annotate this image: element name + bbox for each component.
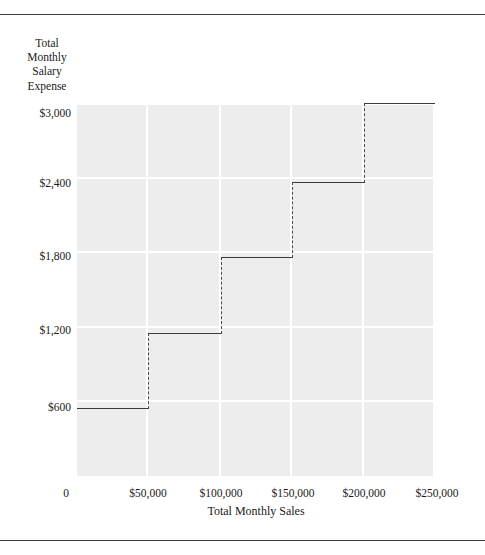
step-riser-2400-to-3000	[364, 103, 365, 183]
y-tick-label-3000: $3,000	[7, 107, 71, 119]
x-tick-label-100000: $100,000	[199, 486, 242, 500]
step-tread-2400	[292, 182, 364, 183]
step-tread-1200	[148, 333, 221, 334]
x-tick-label-150000: $150,000	[271, 486, 314, 500]
x-tick-label-0: 0	[63, 486, 69, 500]
step-tread-600	[77, 408, 148, 409]
x-tick-label-250000: $250,000	[415, 486, 458, 500]
step-tread-3000	[364, 103, 435, 104]
plot-area	[77, 105, 435, 478]
step-tread-1800	[221, 257, 292, 258]
x-tick-label-200000: $200,000	[342, 486, 385, 500]
step-function-chart: Total Monthly Salary Expense $3,000 $2,4…	[0, 0, 485, 555]
step-riser-1800-to-2400	[292, 182, 293, 258]
step-function-series	[77, 105, 435, 478]
step-riser-600-to-1200	[148, 333, 149, 409]
y-tick-label-1800: $1,800	[7, 250, 71, 262]
step-riser-1200-to-1800	[221, 257, 222, 334]
y-axis-tick-labels: $3,000 $2,400 $1,800 $1,200 $600	[0, 0, 71, 555]
x-axis-tick-labels: 0 $50,000 $100,000 $150,000 $200,000 $25…	[0, 486, 485, 504]
x-axis-title: Total Monthly Sales	[77, 504, 435, 519]
x-tick-label-50000: $50,000	[129, 486, 166, 500]
y-tick-label-1200: $1,200	[7, 324, 71, 336]
y-tick-label-600: $600	[7, 401, 71, 413]
y-tick-label-2400: $2,400	[7, 177, 71, 189]
